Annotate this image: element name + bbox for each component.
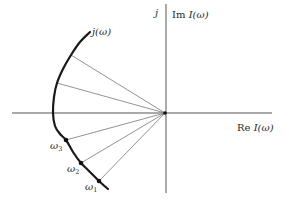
re-variable: I(ω) [254,122,274,133]
ray-5 [99,113,165,181]
origin-point [163,111,167,115]
curve-label: j(ω) [92,27,111,37]
omega-2-subscript: 2 [75,168,79,176]
omega-1-symbol: ω [85,181,93,192]
omega-1-subscript: 1 [93,186,97,194]
omega-1-point [97,179,102,184]
real-axis-label: Re I(ω) [237,123,274,133]
imaginary-unit-label: j [155,8,158,18]
omega-3-point [64,138,69,143]
im-variable: I(ω) [189,9,209,20]
ray-3 [66,113,165,140]
omega-2-label: ω2 [67,164,79,176]
locus-curve [53,32,108,189]
omega-2-point [79,161,84,166]
locus-diagram [0,0,286,205]
omega-3-symbol: ω [50,140,58,151]
omega-2-symbol: ω [67,163,75,174]
imaginary-axis-label: Im I(ω) [172,10,209,20]
ray-1 [71,55,165,113]
omega-3-label: ω3 [50,141,62,153]
ray-4 [81,113,165,163]
omega-1-label: ω1 [85,182,97,194]
re-prefix: Re [237,122,250,133]
curve-label-text: j(ω) [92,26,111,37]
im-prefix: Im [172,9,185,20]
j-text: j [155,7,158,18]
omega-3-subscript: 3 [58,145,62,153]
ray-2 [57,83,165,113]
